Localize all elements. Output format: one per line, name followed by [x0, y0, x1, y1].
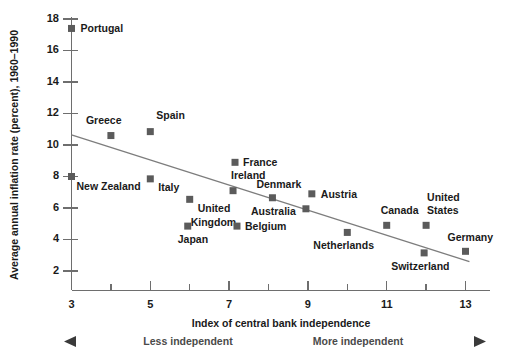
y-tick-label: 18 — [47, 12, 59, 24]
data-point-label: France — [243, 156, 278, 168]
data-point-marker — [462, 248, 469, 255]
data-point-label: Belgium — [245, 220, 286, 232]
data-point-marker — [186, 196, 193, 203]
y-tick-label: 10 — [47, 138, 59, 150]
more-independent-label: More independent — [313, 335, 404, 347]
data-points: PortugalGreeceSpainNew ZealandItalyFranc… — [68, 22, 493, 271]
data-point-marker — [184, 223, 191, 230]
y-tick-label: 12 — [47, 106, 59, 118]
data-point-label: Japan — [178, 233, 208, 245]
data-point-label: Austria — [321, 188, 357, 200]
data-point-label: Kingdom — [191, 216, 237, 228]
y-axis-title: Average annual inflation rate (percent),… — [8, 30, 20, 280]
data-point-marker — [232, 159, 239, 166]
scatter-chart: 24681012141618 35791113 PortugalGreeceSp… — [0, 0, 507, 362]
y-tick-label: 14 — [47, 75, 60, 87]
data-point-marker — [383, 222, 390, 229]
x-tick-label: 5 — [147, 298, 153, 310]
left-arrow-icon — [64, 336, 76, 347]
y-tick-label: 2 — [53, 264, 59, 276]
data-point-marker — [269, 194, 276, 201]
x-tick-label: 7 — [226, 298, 232, 310]
data-point-label: Denmark — [256, 178, 301, 190]
data-point-marker — [68, 25, 75, 32]
y-tick-label: 4 — [53, 232, 60, 244]
data-point-label: Germany — [448, 231, 494, 243]
data-point-marker — [308, 190, 315, 197]
data-point-label: Canada — [381, 204, 419, 216]
data-point-label: Australia — [251, 205, 296, 217]
less-independent-label: Less independent — [143, 335, 233, 347]
data-point-marker — [147, 128, 154, 135]
x-tick-label: 3 — [68, 298, 74, 310]
y-tick-label: 6 — [53, 201, 59, 213]
data-point-marker — [421, 249, 428, 256]
data-point-label: Italy — [158, 181, 179, 193]
y-axis-title-group: Average annual inflation rate (percent),… — [8, 30, 20, 280]
data-point-marker — [147, 175, 154, 182]
data-point-marker — [68, 173, 75, 180]
y-tick-label: 8 — [53, 169, 59, 181]
right-arrow-icon — [474, 336, 486, 347]
data-point-marker — [423, 222, 430, 229]
data-point-label: Portugal — [81, 22, 124, 34]
x-axis-ticks: 35791113 — [68, 281, 471, 310]
x-tick-label: 9 — [305, 298, 311, 310]
data-point-marker — [233, 223, 240, 230]
x-tick-label: 11 — [381, 298, 393, 310]
data-point-marker — [107, 132, 114, 139]
data-point-label: Switzerland — [391, 260, 449, 272]
data-point-label: States — [427, 204, 459, 216]
data-point-label: United — [198, 202, 231, 214]
y-axis-ticks: 24681012141618 — [47, 12, 78, 276]
x-tick-label: 13 — [459, 298, 471, 310]
data-point-marker — [230, 187, 237, 194]
data-point-marker — [302, 205, 309, 212]
chart-canvas: 24681012141618 35791113 PortugalGreeceSp… — [0, 0, 507, 362]
y-tick-label: 16 — [47, 43, 59, 55]
data-point-label: Netherlands — [313, 239, 374, 251]
data-point-label: United — [427, 191, 460, 203]
less-independent-annotation: Less independent — [64, 335, 233, 347]
x-axis-title: Index of central bank independence — [192, 317, 371, 329]
data-point-label: Greece — [86, 114, 122, 126]
data-point-marker — [344, 229, 351, 236]
more-independent-annotation: More independent — [313, 335, 486, 347]
data-point-label: Spain — [156, 109, 185, 121]
data-point-label: New Zealand — [77, 180, 141, 192]
